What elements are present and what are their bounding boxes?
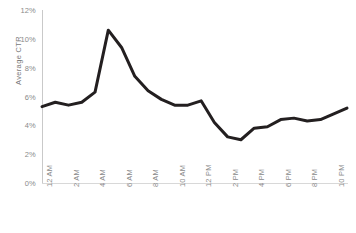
y-axis-tick-label: 0%	[10, 179, 36, 188]
x-axis-tick-label: 10 PM	[337, 164, 346, 187]
x-axis-tick-label: 4 AM	[98, 169, 107, 187]
plot-area	[42, 10, 347, 183]
y-axis-tick-label: 8%	[10, 63, 36, 72]
x-axis-tick-label: 10 AM	[178, 165, 187, 187]
x-axis-tick-label: 12 PM	[204, 164, 213, 187]
x-axis-tick-label: 6 AM	[125, 169, 134, 187]
y-axis-tick-label: 4%	[10, 121, 36, 130]
y-axis-tick-label: 2%	[10, 150, 36, 159]
x-axis-tick-label: 8 AM	[151, 169, 160, 187]
y-axis-tick-labels: 0%2%4%6%8%10%12%	[8, 0, 36, 233]
y-axis-tick-label: 6%	[10, 92, 36, 101]
ctr-by-hour-line-chart: Average CTR 0%2%4%6%8%10%12% 12 AM2 AM4 …	[0, 0, 356, 233]
x-axis-tick-label: 12 AM	[45, 165, 54, 187]
x-axis-tick-label: 2 AM	[72, 169, 81, 187]
y-axis-tick-label: 12%	[10, 6, 36, 15]
series-canvas	[42, 10, 347, 183]
x-axis-tick-label: 2 PM	[231, 169, 240, 187]
x-axis-tick-label: 8 PM	[310, 169, 319, 187]
average-ctr-line	[42, 30, 347, 140]
x-axis-tick-label: 6 PM	[284, 169, 293, 187]
x-axis-tick-label: 4 PM	[257, 169, 266, 187]
x-axis-line	[42, 183, 348, 184]
y-axis-tick-label: 10%	[10, 34, 36, 43]
